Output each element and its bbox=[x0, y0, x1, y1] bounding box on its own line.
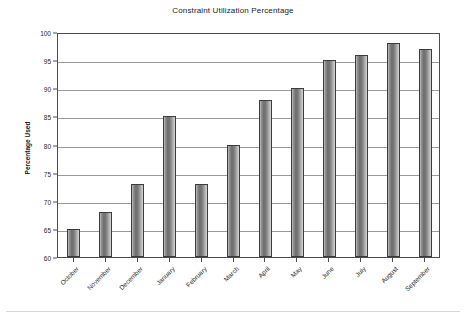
y-axis-tick-label: 80 bbox=[21, 142, 51, 149]
bar bbox=[259, 100, 272, 258]
chart-title: Constraint Utilization Percentage bbox=[0, 6, 466, 15]
bar-chart: Constraint Utilization Percentage Percen… bbox=[0, 0, 466, 316]
x-axis-tick-mark bbox=[264, 258, 265, 262]
bottom-divider bbox=[6, 311, 460, 312]
gridline bbox=[58, 175, 439, 176]
y-axis-tick-label: 70 bbox=[21, 198, 51, 205]
bar bbox=[131, 184, 144, 257]
bar bbox=[195, 184, 208, 257]
x-axis-tick-mark bbox=[137, 258, 138, 262]
gridline bbox=[58, 231, 439, 232]
y-axis-tick-label: 85 bbox=[21, 114, 51, 121]
x-axis-tick-mark bbox=[233, 258, 234, 262]
x-axis-tick-mark bbox=[105, 258, 106, 262]
x-axis-tick-mark bbox=[360, 258, 361, 262]
bar bbox=[67, 229, 80, 257]
x-axis-tick-mark bbox=[328, 258, 329, 262]
x-axis-tick-mark bbox=[392, 258, 393, 262]
plot-area bbox=[57, 33, 440, 258]
bar bbox=[419, 49, 432, 257]
gridline bbox=[58, 118, 439, 119]
gridline bbox=[58, 203, 439, 204]
gridline bbox=[58, 147, 439, 148]
x-axis-tick-mark bbox=[169, 258, 170, 262]
y-axis-tick-label: 95 bbox=[21, 58, 51, 65]
bar bbox=[291, 88, 304, 257]
bar bbox=[227, 145, 240, 258]
x-axis-tick-mark bbox=[424, 258, 425, 262]
y-axis-tick-label: 65 bbox=[21, 226, 51, 233]
gridline bbox=[58, 90, 439, 91]
y-axis-tick-label: 90 bbox=[21, 86, 51, 93]
x-axis-tick-mark bbox=[201, 258, 202, 262]
y-axis-title: Percentage Used bbox=[24, 28, 31, 108]
bar bbox=[323, 60, 336, 257]
bar bbox=[163, 116, 176, 257]
y-axis-tick-label: 100 bbox=[21, 30, 51, 37]
x-axis-tick-mark bbox=[296, 258, 297, 262]
bar bbox=[387, 43, 400, 257]
gridline bbox=[58, 62, 439, 63]
y-axis-tick-label: 60 bbox=[21, 255, 51, 262]
bar bbox=[99, 212, 112, 257]
bar bbox=[355, 55, 368, 258]
x-axis-tick-mark bbox=[73, 258, 74, 262]
y-axis-tick-label: 75 bbox=[21, 170, 51, 177]
